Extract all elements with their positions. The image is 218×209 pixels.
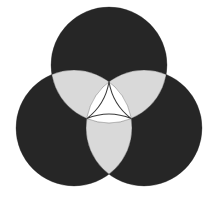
venn-diagram-figure (0, 0, 218, 209)
venn-diagram-canvas (0, 0, 218, 209)
